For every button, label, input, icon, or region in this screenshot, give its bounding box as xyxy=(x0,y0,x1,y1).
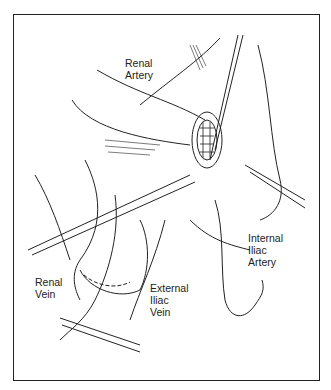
label-external-iliac-vein: ExternalIliacVein xyxy=(150,282,189,318)
label-renal-artery: RenalArtery xyxy=(125,57,153,81)
label-renal-vein: RenalVein xyxy=(35,276,62,300)
anatomy-illustration xyxy=(0,0,331,390)
label-internal-iliac-artery: InternalIliacArtery xyxy=(248,232,283,268)
